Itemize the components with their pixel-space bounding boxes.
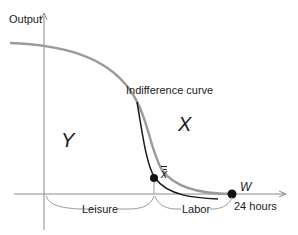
region-x-label: X <box>178 114 191 134</box>
optimum-point <box>150 174 158 182</box>
leisure-brace-right <box>118 196 154 209</box>
labor-brace-left <box>155 196 181 209</box>
leisure-label: Leisure <box>82 204 118 215</box>
indifference-curve-label: Indifference curve <box>126 85 213 96</box>
endpoint-label: W <box>240 181 251 193</box>
optimum-label: x̄ <box>161 168 167 180</box>
region-y-label: Y <box>61 130 74 150</box>
x-axis-end-label: 24 hours <box>234 201 277 212</box>
y-axis-label: Output <box>9 14 42 25</box>
labor-label: Labor <box>182 204 210 215</box>
production-curve <box>10 43 232 194</box>
